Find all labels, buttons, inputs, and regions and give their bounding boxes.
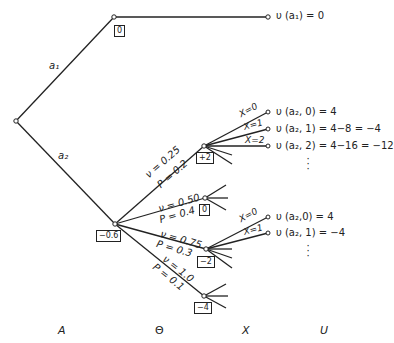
action-label-a2: a₂ bbox=[58, 151, 68, 161]
ellipsis-1: ··· bbox=[306, 156, 310, 171]
utility-1-0: υ (a₂, 0) = 4 bbox=[276, 107, 337, 117]
value-box-state-2: 0 bbox=[199, 204, 210, 216]
axis-label-actions: A bbox=[58, 325, 66, 336]
value-box-state-3: −2 bbox=[197, 256, 215, 268]
outcome-x-1-2: X=2 bbox=[245, 136, 264, 145]
value-box-a2: −0.6 bbox=[96, 230, 121, 242]
value-box-state-1: +2 bbox=[196, 152, 214, 164]
value-box-state-4: −4 bbox=[194, 302, 212, 314]
value-box-a1: 0 bbox=[114, 25, 125, 37]
utility-3-0: υ (a₂,0) = 4 bbox=[276, 212, 334, 222]
utility-1-1: υ (a₂, 1) = 4−8 = −4 bbox=[276, 124, 381, 134]
action-label-a1: a₁ bbox=[49, 61, 59, 71]
ellipsis-2: ··· bbox=[306, 243, 310, 258]
axis-label-utility: U bbox=[320, 325, 328, 336]
axis-label-observations: X bbox=[242, 325, 250, 336]
utility-3-1: υ (a₂, 1) = −4 bbox=[276, 228, 345, 238]
axis-label-states: Θ bbox=[155, 325, 164, 336]
utility-a1: υ (a₁) = 0 bbox=[276, 11, 324, 21]
utility-1-2: υ (a₂, 2) = 4−16 = −12 bbox=[276, 141, 394, 151]
